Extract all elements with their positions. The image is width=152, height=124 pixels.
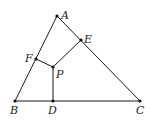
label-a: A bbox=[60, 9, 69, 22]
point-a bbox=[55, 14, 58, 17]
point-f bbox=[34, 57, 37, 60]
point-b bbox=[13, 99, 16, 102]
geometry-diagram: ABCDEFP bbox=[0, 0, 152, 124]
label-d: D bbox=[47, 104, 57, 117]
label-f: F bbox=[24, 52, 33, 65]
segments bbox=[15, 16, 140, 101]
point-d bbox=[51, 99, 54, 102]
point-p bbox=[51, 65, 54, 68]
point-c bbox=[138, 99, 141, 102]
segment-pe bbox=[53, 40, 81, 67]
label-p: P bbox=[55, 68, 64, 81]
label-b: B bbox=[9, 104, 18, 117]
segment-pf bbox=[36, 59, 53, 67]
label-e: E bbox=[83, 33, 92, 46]
label-c: C bbox=[136, 104, 145, 117]
point-e bbox=[79, 38, 82, 41]
segment-ca bbox=[57, 16, 140, 101]
